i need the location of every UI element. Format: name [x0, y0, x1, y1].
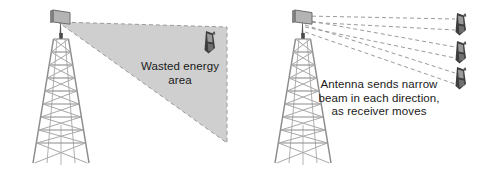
narrow-beams: [305, 16, 455, 84]
wasted-energy-label: Wasted energy area: [128, 60, 232, 87]
right-receiver-handset-1: [456, 13, 467, 36]
figure-canvas: Wasted energy area Antenna sends narrow …: [0, 0, 484, 173]
right-receiver-handset-3: [456, 67, 467, 90]
left-antenna-icon: [51, 10, 70, 24]
right-antenna-icon: [293, 10, 312, 24]
left-panel-group: [33, 10, 227, 165]
right-receiver-handset-2: [456, 41, 467, 64]
narrow-beam-label: Antenna sends narrow beam in each direct…: [306, 78, 452, 119]
